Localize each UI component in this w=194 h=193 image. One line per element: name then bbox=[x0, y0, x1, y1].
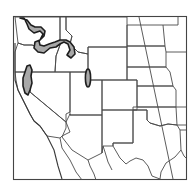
range-map bbox=[0, 0, 194, 193]
state-eastern-edge bbox=[163, 17, 186, 52]
range-areas bbox=[20, 18, 91, 95]
state-wyoming bbox=[88, 47, 127, 80]
pacific-coastline bbox=[15, 43, 62, 179]
state-north-dakota bbox=[127, 25, 165, 46]
state-louisiana-edge bbox=[176, 107, 186, 158]
state-south-dakota bbox=[127, 46, 166, 67]
map-svg bbox=[0, 0, 194, 193]
meridian-line bbox=[139, 17, 173, 179]
range-northwest-band bbox=[20, 18, 75, 58]
state-arizona bbox=[62, 114, 102, 160]
state-montana bbox=[66, 17, 127, 54]
range-utah-wasatch bbox=[85, 69, 90, 87]
state-new-mexico bbox=[102, 110, 133, 153]
state-colorado bbox=[102, 80, 137, 110]
range-california-coast bbox=[23, 65, 32, 95]
state-kansas bbox=[137, 86, 176, 107]
state-boundaries bbox=[15, 17, 186, 180]
